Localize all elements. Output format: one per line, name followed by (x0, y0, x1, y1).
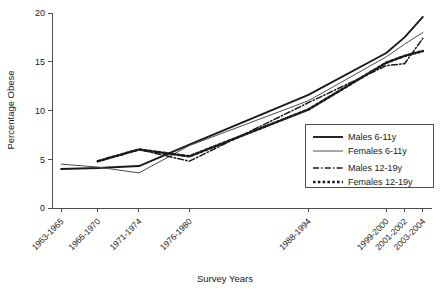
obesity-trend-line-chart: 05101520 1963-19651966-19701971-19741976… (0, 0, 442, 293)
chart-container: 05101520 1963-19651966-19701971-19741976… (0, 0, 442, 293)
x-tick-label: 1971-1974 (108, 216, 144, 252)
x-tick-label: 1966-1970 (66, 216, 102, 252)
x-tick-label: 1988-1994 (277, 216, 313, 252)
x-axis-ticks: 1963-19651966-19701971-19741976-19801988… (30, 208, 428, 252)
legend-label: Females 12-19y (348, 177, 413, 187)
y-tick-label: 20 (35, 8, 45, 18)
legend-label: Males 12-19y (348, 163, 403, 173)
legend-label: Males 6-11y (348, 132, 397, 142)
legend-label: Females 6-11y (348, 146, 407, 156)
x-tick-label: 1963-1965 (30, 216, 66, 252)
x-axis-title: Survey Years (197, 273, 253, 284)
y-tick-label: 0 (40, 203, 45, 213)
y-tick-label: 10 (35, 106, 45, 116)
y-tick-label: 15 (35, 57, 45, 67)
legend: Males 6-11yFemales 6-11yMales 12-19yFema… (305, 124, 433, 187)
y-tick-label: 5 (40, 155, 45, 165)
y-axis-title: Percentage Obese (5, 70, 16, 149)
y-axis-ticks: 05101520 (35, 8, 52, 213)
x-tick-label: 1976-1980 (158, 216, 194, 252)
